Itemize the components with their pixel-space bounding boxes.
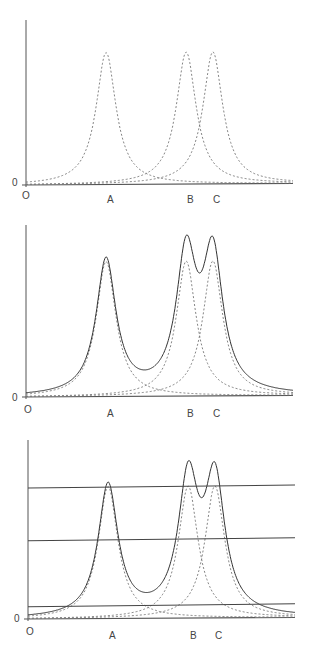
panel-2-peak-a-dashed xyxy=(26,262,293,395)
panel-2-peak-c-dashed xyxy=(26,261,293,397)
panel-1-peak-b-dashed xyxy=(26,52,293,184)
panel-1-label-b: B xyxy=(187,195,194,205)
panel-1-y-zero-label: 0 xyxy=(12,178,18,188)
panel-3-origin-label: O xyxy=(26,627,34,637)
panel-3-peak-b-dashed xyxy=(28,486,295,618)
panel-1-peak-c-dashed xyxy=(26,52,293,185)
panel-2-label-a: A xyxy=(107,409,114,419)
panel-3-threshold-line-middle xyxy=(28,538,295,541)
panel-3-y-zero-label: 0 xyxy=(14,614,20,624)
figure-canvas xyxy=(0,0,310,653)
panel-1-peak-a-dashed xyxy=(26,53,293,183)
panel-2-y-zero-label: 0 xyxy=(12,393,18,403)
panel-3-sum-curve xyxy=(28,461,295,615)
panel-3-label-b: B xyxy=(190,631,197,641)
panel-1-label-a: A xyxy=(107,195,114,205)
peak-resolution-figure: 0 O A B C 0 O A B C 0 O A B C xyxy=(0,0,310,653)
panel-3-threshold-line-high xyxy=(28,485,295,488)
panel-2-peak-b-dashed xyxy=(26,261,293,396)
panel-3-label-a: A xyxy=(109,631,116,641)
panel-2-origin-label: O xyxy=(24,405,32,415)
panel-3-peak-c-dashed xyxy=(28,486,295,619)
panel-2-sum-curve xyxy=(26,235,293,393)
panel-1-label-c: C xyxy=(213,195,220,205)
panel-2-label-b: B xyxy=(187,409,194,419)
panel-2-label-c: C xyxy=(213,409,220,419)
panel-3-label-c: C xyxy=(215,631,222,641)
panel-3-peak-a-dashed xyxy=(28,487,295,618)
panel-1-origin-label: O xyxy=(22,191,30,201)
